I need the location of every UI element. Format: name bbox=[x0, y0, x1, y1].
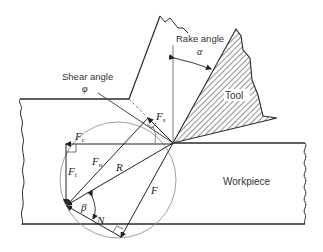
f-label: F bbox=[150, 184, 158, 196]
shear-angle-label: Shear angle bbox=[62, 71, 113, 82]
ft-label: Ft bbox=[67, 165, 78, 179]
rake-angle-arc bbox=[174, 58, 211, 69]
merchant-force-diagram: Workpiece Tool Rake angle α Shear angle … bbox=[0, 0, 323, 252]
rake-angle-symbol: α bbox=[197, 46, 203, 57]
workpiece-label: Workpiece bbox=[223, 176, 270, 187]
beta-angle-arc bbox=[92, 196, 95, 219]
tool-body bbox=[173, 29, 277, 143]
n-label: N bbox=[96, 214, 105, 226]
n-right-angle-mark bbox=[113, 226, 123, 232]
chip bbox=[129, 16, 188, 99]
fs-label: Fs bbox=[155, 110, 166, 124]
f-vector bbox=[121, 143, 173, 237]
fn-label: Fn bbox=[91, 155, 103, 169]
right-break-line bbox=[304, 143, 306, 224]
left-break-line bbox=[20, 99, 24, 225]
chip-back-edge bbox=[129, 16, 160, 99]
tool-label: Tool bbox=[225, 90, 243, 101]
tool: Tool bbox=[173, 29, 277, 143]
beta-label: β bbox=[80, 201, 87, 213]
rake-angle-label: Rake angle bbox=[176, 33, 224, 44]
r-label: R bbox=[115, 161, 123, 173]
fs-right-angle-mark bbox=[147, 123, 156, 128]
fc-label: Fc bbox=[74, 130, 86, 144]
shear-angle-symbol: φ bbox=[82, 83, 88, 94]
n-vector bbox=[67, 206, 121, 237]
chip-broken-edge bbox=[160, 16, 188, 33]
